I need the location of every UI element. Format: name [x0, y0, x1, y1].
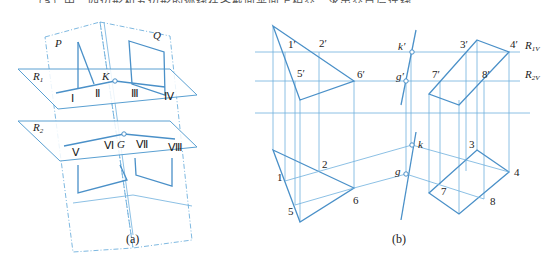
connect-1-k [285, 145, 412, 181]
figure-a: P Q R1 R2 K G Ⅰ Ⅱ Ⅲ Ⅳ Ⅴ Ⅵ Ⅶ Ⅷ (a) [18, 22, 197, 252]
point-g-prime [404, 79, 408, 83]
label-g-prime: g′ [396, 70, 405, 82]
label-4-prime: 4′ [510, 38, 518, 50]
label-r1v: R1V [524, 39, 540, 53]
label-1-prime: 1′ [288, 38, 296, 50]
label-5: 5 [288, 205, 294, 217]
pq-bottom-outline [73, 195, 192, 206]
point-g [122, 132, 126, 136]
label-6-prime: 6′ [357, 68, 365, 80]
label-roman-7: Ⅶ [136, 138, 148, 150]
label-6: 6 [353, 194, 359, 206]
label-2-prime: 2′ [319, 37, 327, 49]
label-roman-3: Ⅲ [131, 87, 139, 99]
quad-q-lower [135, 158, 172, 186]
caption-b: (b) [392, 232, 406, 246]
connect-5-6 [295, 188, 354, 205]
label-g: g [395, 165, 401, 177]
caption-a: (a) [126, 232, 139, 246]
label-7-prime: 7′ [432, 68, 440, 80]
label-p: P [54, 37, 62, 49]
label-1: 1 [277, 171, 283, 183]
front-parallelogram [429, 40, 509, 105]
label-5-prime: 5′ [297, 67, 305, 79]
triangle-p-lower [78, 165, 127, 193]
label-k-prime: k′ [398, 40, 406, 52]
label-k: K [101, 70, 110, 82]
figure-canvas: P Q R1 R2 K G Ⅰ Ⅱ Ⅲ Ⅳ Ⅴ Ⅵ Ⅶ Ⅷ (a) [0, 0, 551, 253]
figure-b: 1′ 2′ 5′ 6′ k′ g′ 3′ 4′ 7′ 8′ R1V R2V 1 … [255, 26, 540, 246]
top-parallelogram [429, 150, 509, 214]
label-8: 8 [490, 195, 496, 207]
label-roman-2: Ⅱ [95, 87, 100, 99]
label-roman-4: Ⅳ [164, 90, 175, 102]
label-3: 3 [469, 138, 475, 150]
point-k [410, 143, 414, 147]
label-roman-5: Ⅴ [72, 146, 80, 158]
label-roman-1: Ⅰ [71, 92, 74, 104]
label-g: G [117, 138, 125, 150]
label-3-prime: 3′ [460, 38, 468, 50]
label-roman-8: Ⅷ [168, 141, 182, 153]
label-7: 7 [441, 185, 447, 197]
label-8-prime: 8′ [482, 68, 490, 80]
label-2: 2 [322, 158, 328, 170]
label-4: 4 [514, 166, 520, 178]
point-g [404, 172, 408, 176]
connect-k-4 [412, 145, 509, 172]
point-k-prime [410, 50, 414, 54]
label-r2v: R2V [524, 68, 540, 82]
point-k [113, 79, 117, 83]
label-roman-6: Ⅵ [104, 139, 114, 151]
label-q: Q [153, 29, 161, 41]
